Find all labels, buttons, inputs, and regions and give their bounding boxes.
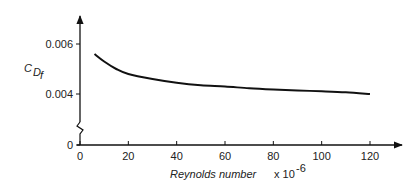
x-tick-label: 40: [171, 150, 183, 162]
y-axis-label: C D f: [24, 62, 44, 81]
x-tick-label: 0: [77, 150, 83, 162]
x-tick-label: 20: [122, 150, 134, 162]
x-tick-label: 100: [312, 150, 330, 162]
axes: [77, 16, 402, 145]
x-tick-label: 80: [267, 150, 279, 162]
x-label-exp: -6: [296, 162, 306, 174]
y-tick-label: 0.006: [45, 38, 73, 50]
x-label-suffix: x 10: [274, 168, 295, 180]
y-tick-label: 0: [67, 139, 73, 151]
x-axis-label: Reynolds number x 10 -6: [170, 162, 306, 180]
cdf-curve: [95, 54, 371, 94]
x-tick-label: 60: [219, 150, 231, 162]
ticks: 02040608010012000.0040.006: [45, 38, 379, 162]
x-label-main: Reynolds number: [170, 168, 258, 180]
chart: 02040608010012000.0040.006 C D f Reynold…: [0, 0, 417, 192]
x-tick-label: 120: [361, 150, 379, 162]
y-tick-label: 0.004: [45, 88, 73, 100]
y-label-subsub: f: [40, 69, 44, 81]
y-label-main: C: [24, 62, 32, 74]
